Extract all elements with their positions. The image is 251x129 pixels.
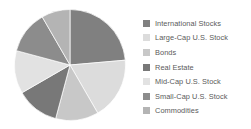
chart-legend: International StocksLarge-Cap U.S. Stock… <box>143 16 251 120</box>
legend-swatch-real-estate <box>143 64 150 71</box>
legend-item-label: Mid-Cap U.S. Stock <box>155 77 221 86</box>
legend-swatch-bonds <box>143 49 150 56</box>
pie-chart <box>14 9 126 121</box>
legend-item[interactable]: Mid-Cap U.S. Stock <box>143 74 251 89</box>
legend-swatch-international-stocks <box>143 20 150 27</box>
legend-item[interactable]: Bonds <box>143 45 251 60</box>
legend-item[interactable]: International Stocks <box>143 16 251 31</box>
pie-chart-figure: International StocksLarge-Cap U.S. Stock… <box>0 0 251 129</box>
legend-swatch-large-cap-us-stock <box>143 34 150 41</box>
chart-plot-area <box>0 0 140 129</box>
legend-item-label: Large-Cap U.S. Stock <box>155 33 228 42</box>
legend-item[interactable]: Small-Cap U.S. Stock <box>143 89 251 104</box>
pie-slice-group <box>15 10 126 121</box>
legend-item-label: Small-Cap U.S. Stock <box>155 92 227 101</box>
legend-swatch-small-cap-us-stock <box>143 93 150 100</box>
legend-item-label: Bonds <box>155 48 176 57</box>
legend-item-label: Real Estate <box>155 63 194 72</box>
legend-item-label: International Stocks <box>155 19 221 28</box>
legend-swatch-commodities <box>143 107 150 114</box>
legend-item-label: Commodities <box>155 106 199 115</box>
legend-item[interactable]: Commodities <box>143 104 251 119</box>
legend-swatch-mid-cap-us-stock <box>143 78 150 85</box>
legend-item[interactable]: Large-Cap U.S. Stock <box>143 31 251 46</box>
legend-item[interactable]: Real Estate <box>143 60 251 75</box>
pie-slice <box>70 10 125 66</box>
